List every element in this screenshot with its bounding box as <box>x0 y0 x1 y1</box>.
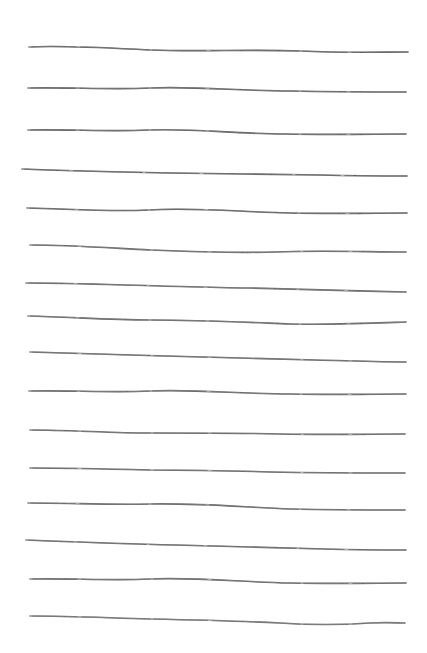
canvas-background <box>0 0 427 653</box>
drawing-canvas <box>0 0 427 653</box>
ruled-lines-svg <box>0 0 427 653</box>
